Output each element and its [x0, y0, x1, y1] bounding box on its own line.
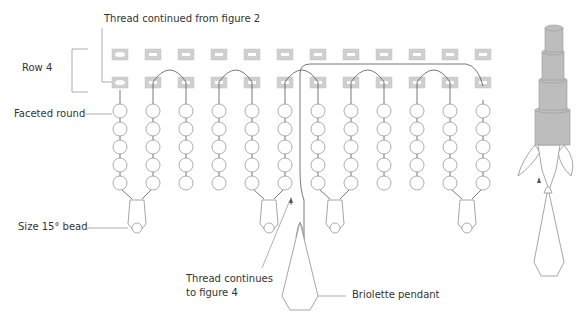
mandrel-illustration: [518, 25, 573, 276]
label-faceted-round: Faceted round: [14, 108, 85, 119]
fringe-drop-4: [452, 190, 481, 233]
label-thread-continues-1: Thread continues: [185, 273, 273, 284]
column-2: [146, 104, 160, 190]
column-4: [212, 104, 226, 190]
briolette-pendant: [282, 197, 318, 310]
label-briolette-pendant: Briolette pendant: [352, 289, 440, 300]
cylinder-row-top: [112, 49, 491, 60]
label-thread-continued-from: Thread continued from figure 2: [103, 13, 260, 24]
column-11: [443, 104, 457, 190]
row-4-bracket: [72, 49, 88, 92]
column-8: [344, 104, 358, 190]
beading-diagram: Thread continued from figure 2 Row 4 Fac…: [0, 0, 588, 323]
fringe-drop-1: [122, 190, 151, 233]
fringe-drop-3: [320, 190, 349, 233]
column-12: [476, 104, 490, 190]
column-7: [311, 104, 325, 190]
label-size-15-bead: Size 15° bead: [18, 221, 88, 232]
column-10: [410, 104, 424, 190]
label-row-4: Row 4: [22, 62, 52, 73]
column-3: [179, 104, 193, 190]
column-9: [377, 104, 391, 190]
label-thread-continues-2: to figure 4: [186, 287, 238, 298]
thread-path: [120, 64, 483, 240]
column-5: [245, 104, 259, 190]
faceted-round-beads: [113, 104, 490, 190]
cylinder-row-4: [112, 77, 491, 88]
column-1: [113, 104, 127, 190]
column-6: [278, 104, 292, 190]
